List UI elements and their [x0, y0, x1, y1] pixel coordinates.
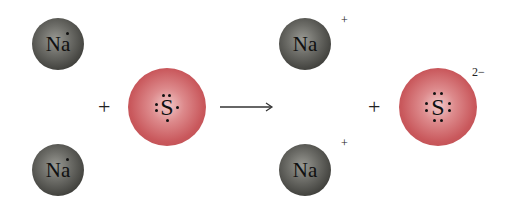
sodium-symbol: Na [293, 34, 318, 55]
valence-electron-dot [66, 32, 69, 35]
valence-electron-dot [448, 109, 451, 112]
plus-sign: + [368, 96, 380, 118]
product-sodium-ion-top: Na [279, 18, 331, 70]
product-sulfide-ion: S [399, 68, 477, 146]
product-sodium-ion-bottom: Na [279, 144, 331, 196]
valence-electron-dot [433, 92, 436, 95]
valence-electron-dot [425, 102, 428, 105]
sulfur-symbol: S [160, 95, 173, 119]
valence-electron-dot [440, 92, 443, 95]
sodium-ion-charge: + [341, 14, 348, 26]
valence-electron-dot [168, 94, 171, 97]
reactant-sulfur-atom: S [128, 68, 206, 146]
sulfur-symbol: S [431, 95, 444, 119]
reaction-arrow-icon [219, 101, 275, 113]
reactant-sodium-atom-top: Na [32, 18, 84, 70]
plus-sign: + [98, 96, 110, 118]
sodium-symbol: Na [46, 34, 71, 55]
sulfide-ion-charge: 2− [472, 66, 485, 78]
reactant-sodium-atom-bottom: Na [32, 144, 84, 196]
valence-electron-dot [448, 102, 451, 105]
sodium-ion-charge: + [341, 137, 348, 149]
sodium-symbol: Na [46, 160, 71, 181]
sodium-symbol: Na [293, 160, 318, 181]
valence-electron-dot [425, 109, 428, 112]
valence-electron-dot [155, 109, 158, 112]
valence-electron-dot [155, 103, 158, 106]
valence-electron-dot [440, 119, 443, 122]
valence-electron-dot [66, 158, 69, 161]
valence-electron-dot [166, 119, 169, 122]
valence-electron-dot [162, 94, 165, 97]
valence-electron-dot [176, 106, 179, 109]
valence-electron-dot [433, 119, 436, 122]
